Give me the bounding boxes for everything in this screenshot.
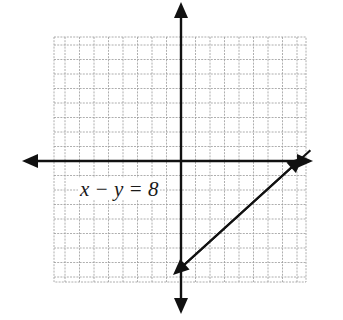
equation-label: x − y = 8 bbox=[78, 178, 160, 200]
coordinate-graph bbox=[0, 0, 343, 320]
axes bbox=[22, 2, 313, 314]
line-x-minus-y-equals-8 bbox=[173, 150, 310, 275]
